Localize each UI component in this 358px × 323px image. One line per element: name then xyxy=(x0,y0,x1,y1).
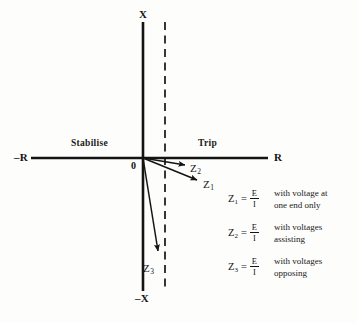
vector-z1 xyxy=(143,158,197,180)
axis-label-r-positive: R xyxy=(274,151,282,163)
vector-label-z2-subscript: 2 xyxy=(197,167,201,176)
legend-denominator-z1: I xyxy=(253,199,256,208)
legend: Z1 = E I with voltage at one end only Z2… xyxy=(228,186,358,288)
vector-label-z1-subscript: 1 xyxy=(210,183,214,192)
region-label-stabilise: Stabilise xyxy=(71,138,108,148)
legend-numerator-z2: E xyxy=(252,223,257,232)
legend-symbol-z1: Z1 xyxy=(228,193,238,204)
legend-symbol-z3-subscript: 3 xyxy=(234,266,238,274)
legend-description-z1-line1: with voltage at xyxy=(274,188,328,198)
legend-row-z3: Z3 = E I with voltages opposing xyxy=(228,254,358,279)
vector-label-z3: Z3 xyxy=(143,262,154,274)
legend-row-z2: Z2 = E I with voltages assisting xyxy=(228,220,358,245)
legend-description-z3-line1: with voltages xyxy=(274,256,322,266)
axis-label-r-negative: –R xyxy=(14,151,28,163)
legend-symbol-z3: Z3 xyxy=(228,261,238,272)
legend-symbol-z2-subscript: 2 xyxy=(234,232,238,240)
vector-label-z1-symbol: Z xyxy=(203,178,210,190)
vector-label-z3-subscript: 3 xyxy=(150,267,154,276)
legend-equation-z1: Z1 = E I xyxy=(228,186,274,208)
legend-equals-z2: = xyxy=(238,227,250,238)
legend-description-z2: with voltages assisting xyxy=(274,220,358,245)
legend-denominator-z2: I xyxy=(253,233,256,242)
legend-row-z1: Z1 = E I with voltage at one end only xyxy=(228,186,358,211)
legend-fraction-z3: E I xyxy=(250,257,259,276)
region-label-trip: Trip xyxy=(198,138,217,148)
legend-description-z3-line2: opposing xyxy=(274,268,358,280)
legend-numerator-z3: E xyxy=(252,257,257,266)
vector-label-z2: Z2 xyxy=(190,162,201,174)
legend-equation-z3: Z3 = E I xyxy=(228,254,274,276)
legend-symbol-z2: Z2 xyxy=(228,227,238,238)
vector-label-z2-symbol: Z xyxy=(190,162,197,174)
legend-description-z3: with voltages opposing xyxy=(274,254,358,279)
legend-numerator-z1: E xyxy=(252,189,257,198)
vector-label-z1: Z1 xyxy=(203,178,214,190)
legend-equation-z2: Z2 = E I xyxy=(228,220,274,242)
vector-z3 xyxy=(143,158,158,251)
legend-equals-z1: = xyxy=(238,193,250,204)
legend-symbol-z1-subscript: 1 xyxy=(234,198,238,206)
legend-description-z2-line1: with voltages xyxy=(274,222,322,232)
legend-description-z1-line2: one end only xyxy=(274,200,358,212)
legend-fraction-z2: E I xyxy=(250,223,259,242)
legend-description-z1: with voltage at one end only xyxy=(274,186,358,211)
legend-denominator-z3: I xyxy=(253,267,256,276)
legend-description-z2-line2: assisting xyxy=(274,234,358,246)
legend-equals-z3: = xyxy=(238,261,250,272)
vector-label-z3-symbol: Z xyxy=(143,262,150,274)
axis-label-x-negative: –X xyxy=(135,292,149,304)
impedance-diagram-figure: X –X –R R 0 Stabilise Trip Z2 Z1 Z3 Z1 =… xyxy=(0,0,358,323)
origin-label: 0 xyxy=(131,160,136,171)
legend-fraction-z1: E I xyxy=(250,189,259,208)
axis-label-x-positive: X xyxy=(139,8,147,20)
